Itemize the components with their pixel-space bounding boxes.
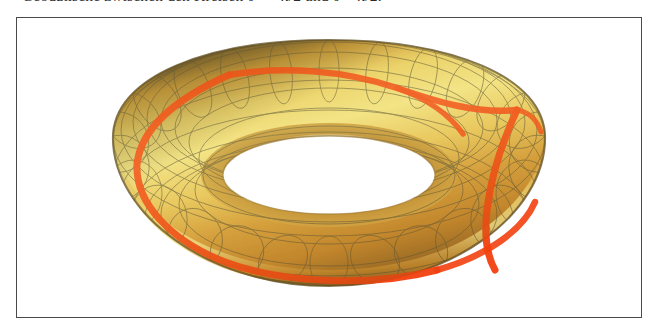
figure-caption-text: Geodätische zwischen den Kreisen θ = −π/… — [22, 0, 652, 4]
figure-canvas — [17, 18, 641, 317]
caption-strip: Geodätische zwischen den Kreisen θ = −π/… — [0, 0, 667, 12]
torus-geodesic-figure — [16, 17, 642, 318]
torus-3d-plot — [17, 18, 641, 317]
